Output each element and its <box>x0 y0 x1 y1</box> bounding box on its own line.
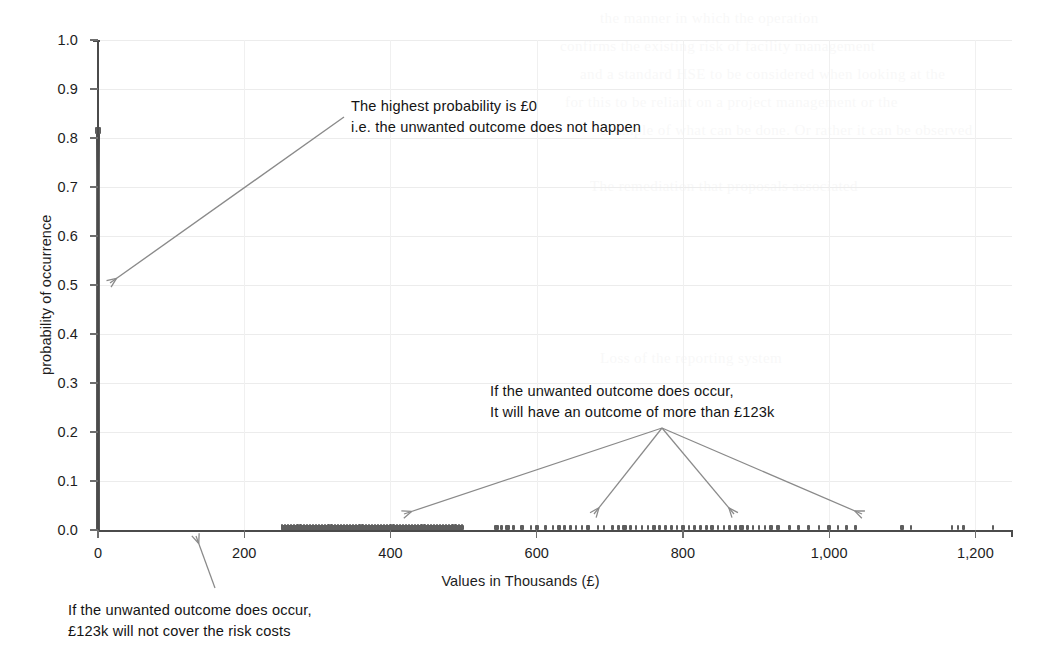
y-axis-tick-label: 0.8 <box>34 130 78 146</box>
annotation-risk-cost: If the unwanted outcome does occur, £123… <box>68 600 312 642</box>
y-axis-tick-label: 1.0 <box>34 32 78 48</box>
x-axis-tick-label: 400 <box>378 545 403 561</box>
y-axis-tick <box>90 480 98 481</box>
x-axis-right-cap <box>1011 530 1013 537</box>
y-axis-tick <box>90 186 98 187</box>
x-axis-tick-label: 600 <box>524 545 549 561</box>
gridline-horizontal <box>98 285 1012 286</box>
annotation-zero-line-2: i.e. the unwanted outcome does not happe… <box>351 117 641 138</box>
x-axis-tick-label: 1,000 <box>811 545 848 561</box>
y-axis-tick <box>90 39 98 40</box>
gridline-horizontal <box>98 236 1012 237</box>
gridline-vertical <box>244 40 245 530</box>
y-axis-tick-label: 0.7 <box>34 179 78 195</box>
annotation-outcome: If the unwanted outcome does occur, It w… <box>490 381 775 423</box>
annotation-outcome-line-1: If the unwanted outcome does occur, <box>490 381 775 402</box>
x-axis-tick <box>682 530 683 538</box>
y-axis-tick-label: 0.1 <box>34 473 78 489</box>
annotation-risk-cost-line-2: £123k will not cover the risk costs <box>68 621 312 642</box>
y-axis-tick <box>90 382 98 383</box>
y-axis-tick <box>90 88 98 89</box>
gridline-vertical <box>829 40 830 530</box>
y-axis-tick <box>90 333 98 334</box>
x-axis-tick <box>829 530 830 538</box>
x-axis-tick-label: 800 <box>671 545 696 561</box>
gridline-horizontal <box>98 187 1012 188</box>
y-axis-tick <box>90 235 98 236</box>
gridline-horizontal <box>98 89 1012 90</box>
gridline-vertical <box>683 40 684 530</box>
x-axis-title: Values in Thousands (£) <box>0 573 1041 589</box>
gridline-horizontal <box>98 481 1012 482</box>
x-axis-line <box>97 530 1013 532</box>
x-axis-tick <box>390 530 391 538</box>
x-axis-tick-label: 1,200 <box>957 545 994 561</box>
annotation-risk-cost-line-1: If the unwanted outcome does occur, <box>68 600 312 621</box>
gridline-horizontal <box>98 432 1012 433</box>
x-axis-tick <box>975 530 976 538</box>
y-axis-tick <box>90 284 98 285</box>
y-axis-tick-label: 0.2 <box>34 424 78 440</box>
x-axis-tick-label: 200 <box>232 545 257 561</box>
chart-canvas: the manner in which the operation confir… <box>0 0 1041 661</box>
y-axis-tick <box>90 431 98 432</box>
gridline-vertical <box>975 40 976 530</box>
gridline-horizontal <box>98 334 1012 335</box>
y-axis-tick-label: 0.3 <box>34 375 78 391</box>
y-axis-tick-label: 0.0 <box>34 522 78 538</box>
y-axis-tick <box>90 137 98 138</box>
x-axis-tick-label: 0 <box>94 545 102 561</box>
gridline-horizontal <box>98 40 1012 41</box>
annotation-outcome-line-2: It will have an outcome of more than £12… <box>490 402 775 423</box>
y-axis-tick-label: 0.9 <box>34 81 78 97</box>
bleed-text: the manner in which the operation <box>600 10 819 27</box>
x-axis-tick <box>536 530 537 538</box>
x-axis-tick <box>244 530 245 538</box>
y-axis-title: probability of occurrence <box>38 215 54 375</box>
annotation-zero: The highest probability is £0 i.e. the u… <box>351 96 641 138</box>
annotation-zero-line-1: The highest probability is £0 <box>351 96 641 117</box>
x-axis-tick <box>97 530 98 538</box>
